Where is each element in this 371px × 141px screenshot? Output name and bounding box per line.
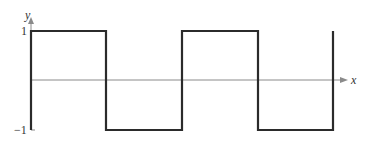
y-tick-label-1: 1 [21,24,27,38]
x-axis-label: x [350,73,357,87]
x-axis-arrow-icon [340,77,348,83]
y-tick-label-neg1: −1 [14,123,27,137]
square-wave-chart: y 1 −1 x [0,0,371,141]
y-axis-label: y [24,8,31,22]
